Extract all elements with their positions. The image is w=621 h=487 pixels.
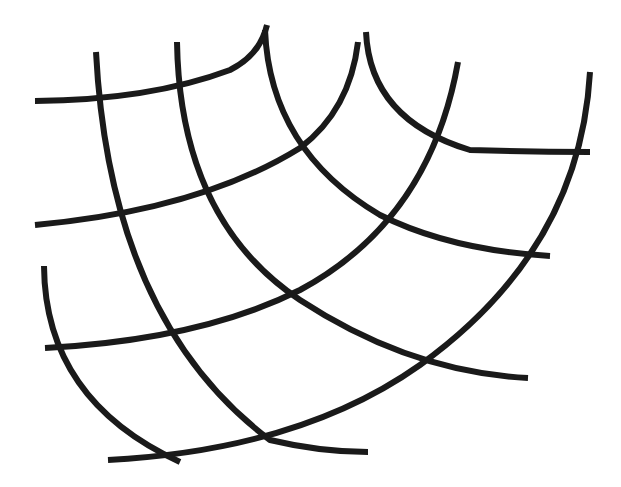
grid-arc-h2 bbox=[35, 42, 358, 225]
curved-grid-figure bbox=[0, 0, 621, 487]
grid-arc-v5 bbox=[366, 32, 590, 152]
grid-arc-h1 bbox=[35, 25, 267, 101]
grid-arc-v1 bbox=[44, 266, 180, 462]
grid-arc-h4 bbox=[108, 72, 590, 460]
grid-arc-v3 bbox=[177, 42, 528, 378]
grid-arc-v2 bbox=[96, 52, 368, 452]
